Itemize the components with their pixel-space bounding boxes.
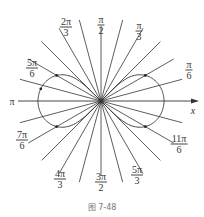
angle-label-7pi-6: 7π6 xyxy=(16,130,28,151)
angle-label-pi-2: π2 xyxy=(97,15,104,36)
figure-caption: 图 7-48 xyxy=(88,201,117,212)
angle-label-4pi-3: 4π3 xyxy=(54,169,66,190)
angle-label-11pi-6: 11π6 xyxy=(171,134,188,155)
angle-label-pi-3: π3 xyxy=(135,21,142,42)
axis-arrow-icon xyxy=(191,99,199,104)
pi-axis-label: π xyxy=(9,96,14,107)
angle-label-5pi-3: 5π3 xyxy=(131,165,143,186)
x-axis-label: x xyxy=(191,105,195,116)
angle-label-2pi-3: 2π3 xyxy=(60,17,72,38)
angle-label-5pi-6: 5π6 xyxy=(26,58,38,79)
angle-label-3pi-2: 3π2 xyxy=(95,172,107,193)
angle-label-pi-6: π6 xyxy=(185,60,192,81)
